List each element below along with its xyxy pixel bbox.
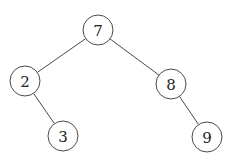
tree-node-7: 7 — [83, 15, 113, 45]
tree-diagram: 72839 — [0, 0, 237, 160]
tree-node-9: 9 — [192, 122, 222, 152]
edge-8-9 — [179, 96, 198, 124]
node-label: 2 — [20, 73, 30, 91]
node-label: 8 — [166, 76, 176, 94]
edge-7-8 — [110, 39, 159, 75]
tree-node-3: 3 — [48, 121, 78, 151]
tree-node-2: 2 — [10, 66, 40, 96]
tree-nodes: 72839 — [10, 15, 222, 152]
node-label: 7 — [93, 22, 103, 40]
node-label: 9 — [202, 129, 212, 147]
node-label: 3 — [58, 128, 68, 146]
edge-7-2 — [37, 39, 85, 73]
tree-node-8: 8 — [156, 69, 186, 99]
edge-2-3 — [34, 93, 55, 123]
